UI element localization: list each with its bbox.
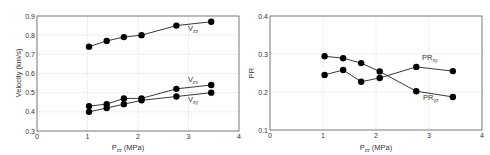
y-tick-label: 0.2 xyxy=(258,89,268,96)
right-x-axis-label: Pzz (MPa) xyxy=(360,143,393,153)
data-point xyxy=(103,105,109,111)
data-point xyxy=(208,82,214,88)
x-tick-label: 0 xyxy=(35,133,39,140)
x-tick-label: 4 xyxy=(237,133,241,140)
y-tick-label: 0.3 xyxy=(25,128,35,135)
velocity-chart: 012340.30.40.50.60.70.80.9 xyxy=(25,13,241,141)
data-point xyxy=(358,79,364,85)
y-tick-label: 0.9 xyxy=(25,13,35,20)
y-tick-label: 0.4 xyxy=(258,13,268,20)
x-tick-label: 0 xyxy=(268,132,272,139)
data-point xyxy=(138,97,144,103)
y-tick-label: 0.3 xyxy=(258,51,268,58)
y-tick-label: 0.7 xyxy=(25,51,35,58)
data-point xyxy=(173,22,179,28)
data-point xyxy=(358,60,364,66)
poisson-ratio-chart: 012340.10.20.30.4 xyxy=(258,13,484,140)
x-tick-label: 4 xyxy=(480,132,484,139)
data-point xyxy=(121,101,127,107)
data-point xyxy=(173,93,179,99)
y-tick-label: 0.5 xyxy=(25,89,35,96)
y-tick-label: 0.8 xyxy=(25,32,35,39)
data-point xyxy=(340,67,346,73)
data-point xyxy=(377,75,383,81)
left-y-axis-label: Velocity (km/s) xyxy=(14,48,23,97)
left-x-axis-label: Pzz (MPa) xyxy=(112,143,145,153)
data-point xyxy=(86,109,92,115)
data-point xyxy=(121,34,127,40)
data-point xyxy=(121,95,127,101)
data-point xyxy=(377,68,383,74)
x-tick-label: 2 xyxy=(136,133,140,140)
right-y-axis-label: PR xyxy=(247,67,256,78)
x-tick-label: 3 xyxy=(427,132,431,139)
data-point xyxy=(86,43,92,49)
x-tick-label: 3 xyxy=(187,133,191,140)
x-tick-label: 1 xyxy=(86,133,90,140)
x-tick-label: 1 xyxy=(321,132,325,139)
x-tick-label: 2 xyxy=(374,132,378,139)
data-point xyxy=(173,86,179,92)
data-point xyxy=(208,19,214,25)
data-point xyxy=(340,55,346,61)
data-point xyxy=(413,88,419,94)
data-point xyxy=(321,53,327,59)
data-point xyxy=(450,94,456,100)
y-tick-label: 0.6 xyxy=(25,70,35,77)
data-point xyxy=(103,38,109,44)
data-point xyxy=(321,72,327,78)
data-point xyxy=(450,68,456,74)
figure: 012340.30.40.50.60.70.80.9 012340.10.20.… xyxy=(0,0,490,155)
y-tick-label: 0.1 xyxy=(258,127,268,134)
data-point xyxy=(413,64,419,70)
data-point xyxy=(86,103,92,109)
y-tick-label: 0.4 xyxy=(25,108,35,115)
data-point xyxy=(208,89,214,95)
data-point xyxy=(138,32,144,38)
